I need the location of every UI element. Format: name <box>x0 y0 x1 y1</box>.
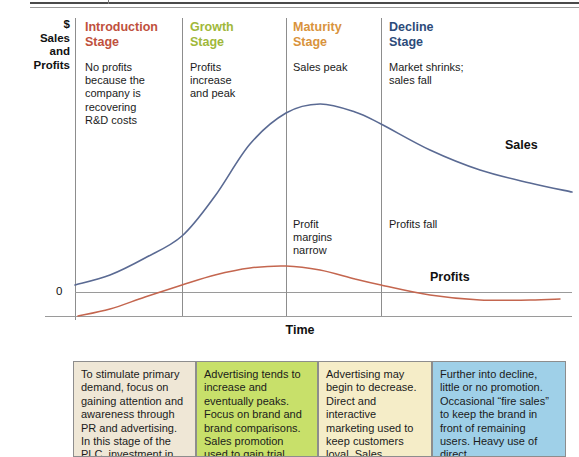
product-life-cycle-chart: $ Sales and Profits 0 Time Introduction … <box>0 14 579 344</box>
strategy-box-maturity: Advertising may begin to decrease. Direc… <box>318 361 432 457</box>
profits-curve <box>78 266 560 316</box>
header-rule-tick <box>108 0 109 4</box>
header-rule-thick <box>30 2 579 4</box>
sales-curve <box>75 104 572 285</box>
profits-curve-label: Profits <box>430 270 470 284</box>
header-rule-thin <box>30 7 579 8</box>
strategy-box-growth: Advertising tends to increase and eventu… <box>196 361 318 457</box>
strategy-box-row: To stimulate primary demand, focus on ga… <box>0 361 579 457</box>
curve-layer <box>0 14 579 344</box>
strategy-box-decline: Further into decline, little or no promo… <box>432 361 566 457</box>
strategy-box-introduction: To stimulate primary demand, focus on ga… <box>73 361 196 457</box>
sales-curve-label: Sales <box>505 138 538 152</box>
